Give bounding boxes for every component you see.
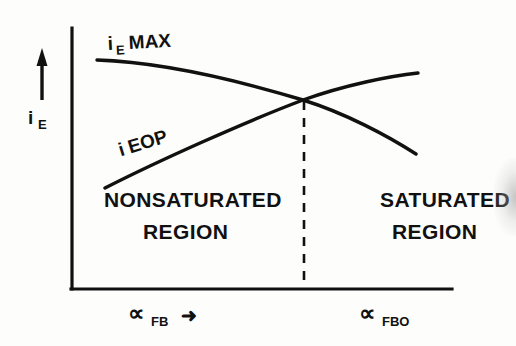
ieop-label-tail: EOP: [125, 125, 170, 157]
x-axis-left-label-sub: FB: [151, 314, 168, 329]
y-axis-label-sub: E: [38, 117, 47, 132]
nonsaturated-region-label: NONSATURATED REGION: [104, 188, 282, 243]
diagram-canvas: i E i E MAX i EOP NONSATURATED REGION SA…: [0, 0, 516, 346]
x-axis-left-label: ∝ FB ➜: [128, 300, 197, 329]
saturated-region-line1: SATURATED: [380, 188, 510, 211]
x-axis-right-label-sub: FBO: [382, 314, 409, 329]
x-axis-direction-arrow-icon: ➜: [181, 305, 197, 326]
ie-max-label-main: i: [107, 33, 113, 54]
saturated-region-label: SATURATED REGION: [380, 188, 510, 243]
ieop-curve-label: i EOP: [116, 125, 170, 160]
x-axis-left-label-main: ∝: [128, 300, 144, 326]
ie-max-label-tail: MAX: [128, 30, 172, 53]
saturated-region-line2: REGION: [392, 220, 477, 243]
figure-root: i E i E MAX i EOP NONSATURATED REGION SA…: [0, 0, 516, 346]
ie-max-curve-label: i E MAX: [107, 30, 172, 58]
ie-max-label-sub: E: [116, 42, 126, 57]
x-axis-right-label-main: ∝: [359, 300, 375, 326]
up-arrow-icon: [37, 48, 48, 100]
x-axis-right-label: ∝ FBO: [359, 300, 409, 329]
nonsaturated-region-line2: REGION: [143, 220, 228, 243]
nonsaturated-region-line1: NONSATURATED: [104, 188, 282, 211]
ieop-label-main: i: [116, 139, 127, 161]
y-axis-label: i E: [28, 107, 47, 132]
y-axis-label-main: i: [28, 107, 33, 128]
